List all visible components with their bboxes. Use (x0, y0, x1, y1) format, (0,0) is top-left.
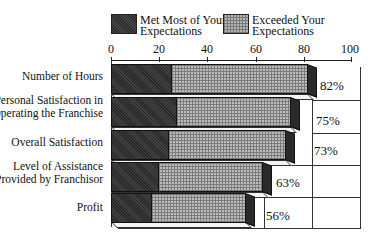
category-label-overall: Overall Satisfaction (11, 136, 103, 149)
grid-h (264, 197, 360, 198)
x-tick-20: 20 (153, 42, 165, 57)
bar-overall-exceeded (168, 130, 286, 160)
category-label-hours: Number of Hours (22, 70, 103, 83)
x-tick-40: 40 (201, 42, 213, 57)
legend-met-line2: Expectations (140, 26, 226, 37)
bar-hours-met (111, 64, 172, 94)
total-label-assistance: 63% (276, 175, 300, 191)
total-label-hours: 82% (320, 78, 344, 94)
x-tick-mark (351, 57, 352, 62)
x-tick-mark (207, 57, 208, 62)
x-tick-100: 100 (341, 42, 359, 57)
total-label-personal: 75% (316, 113, 340, 129)
legend-label-exceeded: Exceeded Your Expectations (252, 15, 325, 37)
grid-h (312, 133, 360, 134)
category-label-personal-line1: Personal Satisfaction in (0, 94, 103, 107)
frame-right (360, 67, 361, 229)
category-label-profit: Profit (77, 201, 103, 214)
bar-overall-side (285, 130, 295, 164)
x-tick-mark (304, 57, 305, 62)
bar-profit-side (245, 193, 255, 227)
x-tick-80: 80 (298, 42, 310, 57)
category-label-assistance-line1: Level of Assistance (0, 160, 103, 173)
bar-assistance-exceeded (158, 162, 263, 192)
category-label-assistance: Level of Assistance Provided by Franchis… (0, 160, 103, 186)
bar-personal-exceeded (176, 97, 291, 127)
x-tick-mark (159, 57, 160, 62)
bar-personal-side (290, 97, 300, 131)
bar-profit-exceeded (151, 193, 246, 223)
bar-hours-side (307, 64, 317, 98)
category-label-personal-line2: Operating the Franchise (0, 107, 103, 120)
category-label-assistance-line2: Provided by Franchisor (0, 173, 103, 186)
legend-exceeded-line2: Expectations (252, 26, 325, 37)
bar-assistance-side (262, 162, 272, 196)
grid-h (312, 100, 360, 101)
legend-swatch-met (111, 14, 137, 34)
grid-60 (264, 197, 265, 229)
x-tick-0: 0 (108, 42, 114, 57)
frame-bottom (118, 228, 361, 229)
legend-swatch-exceeded (223, 14, 249, 34)
total-label-overall: 73% (314, 143, 338, 159)
category-label-personal: Personal Satisfaction in Operating the F… (0, 94, 103, 120)
x-axis-line (111, 60, 352, 61)
legend-label-met: Met Most of Your Expectations (140, 15, 226, 37)
bar-personal-met (111, 97, 177, 127)
x-tick-mark (256, 57, 257, 62)
total-label-profit: 56% (266, 208, 290, 224)
x-tick-60: 60 (250, 42, 262, 57)
bar-overall-met (111, 130, 169, 160)
bar-assistance-met (111, 162, 159, 192)
bar-profit-met (111, 193, 152, 223)
bar-hours-exceeded (171, 64, 308, 94)
